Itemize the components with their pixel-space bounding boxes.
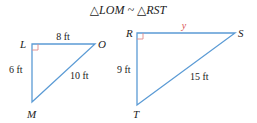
triangle-lom: L O M 8 ft 6 ft 10 ft [9, 31, 106, 120]
triangle-rst-shape [137, 33, 235, 105]
right-angle-marker-r [137, 33, 143, 39]
side-label-rs-unknown: y [181, 20, 187, 31]
side-label-st: 15 ft [190, 71, 209, 82]
side-label-rt: 9 ft [117, 64, 131, 75]
side-label-lm: 6 ft [9, 64, 23, 75]
vertex-label-t: T [133, 108, 140, 120]
vertex-label-r: R [125, 27, 133, 39]
vertex-label-o: O [98, 38, 106, 50]
side-label-om: 10 ft [70, 70, 89, 81]
vertex-label-m: M [26, 108, 37, 120]
vertex-label-s: S [238, 27, 244, 39]
similar-triangles-diagram: △LOM ~ △RST L O M 8 ft 6 ft 10 ft R S T … [0, 0, 257, 123]
vertex-label-l: L [19, 38, 26, 50]
similarity-statement: △LOM ~ △RST [90, 3, 168, 17]
triangle-rst: R S T y 9 ft 15 ft [117, 20, 244, 120]
side-label-lo: 8 ft [56, 31, 70, 42]
right-angle-marker-l [32, 44, 38, 50]
